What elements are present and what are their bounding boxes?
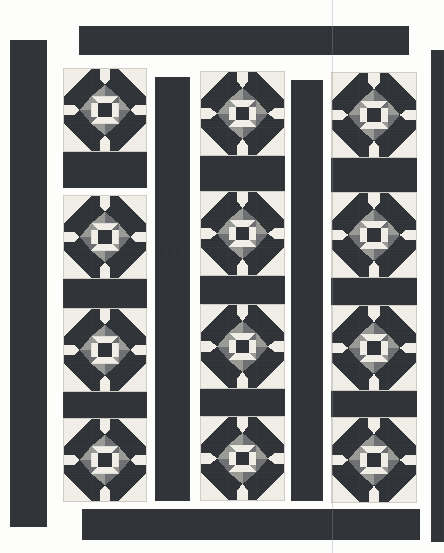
star-block-c2-r1 (200, 71, 285, 156)
bottom-border-strip (82, 509, 420, 540)
star-block-c1-r2 (63, 195, 147, 279)
horizontal-sashing-2-1 (200, 156, 285, 191)
quilt-canvas (0, 0, 444, 553)
star-block-c3-r3 (331, 305, 417, 391)
horizontal-sashing-2-3 (200, 389, 285, 416)
left-border-strip (10, 40, 47, 527)
vertical-sashing-2 (291, 80, 323, 501)
top-border-strip (79, 26, 409, 55)
vertical-sashing-1 (155, 77, 190, 501)
star-block-c3-r4 (331, 417, 417, 503)
star-block-c1-r4 (63, 418, 147, 502)
horizontal-sashing-3-1 (331, 158, 417, 192)
horizontal-sashing-3-2 (331, 278, 417, 305)
star-block-c3-r2 (331, 192, 417, 278)
star-block-c2-r2 (200, 191, 285, 276)
star-block-c3-r1 (331, 72, 417, 158)
horizontal-sashing-3-3 (331, 391, 417, 417)
scan-seam-line (332, 0, 333, 553)
star-block-c1-r1 (63, 68, 147, 152)
horizontal-sashing-1-1 (63, 152, 147, 188)
star-block-c2-r3 (200, 304, 285, 389)
horizontal-sashing-1-3 (63, 392, 147, 418)
star-block-c2-r4 (200, 416, 285, 501)
horizontal-sashing-1-2 (63, 279, 147, 308)
right-border-strip (431, 50, 444, 542)
horizontal-sashing-2-2 (200, 276, 285, 304)
star-block-c1-r3 (63, 308, 147, 392)
